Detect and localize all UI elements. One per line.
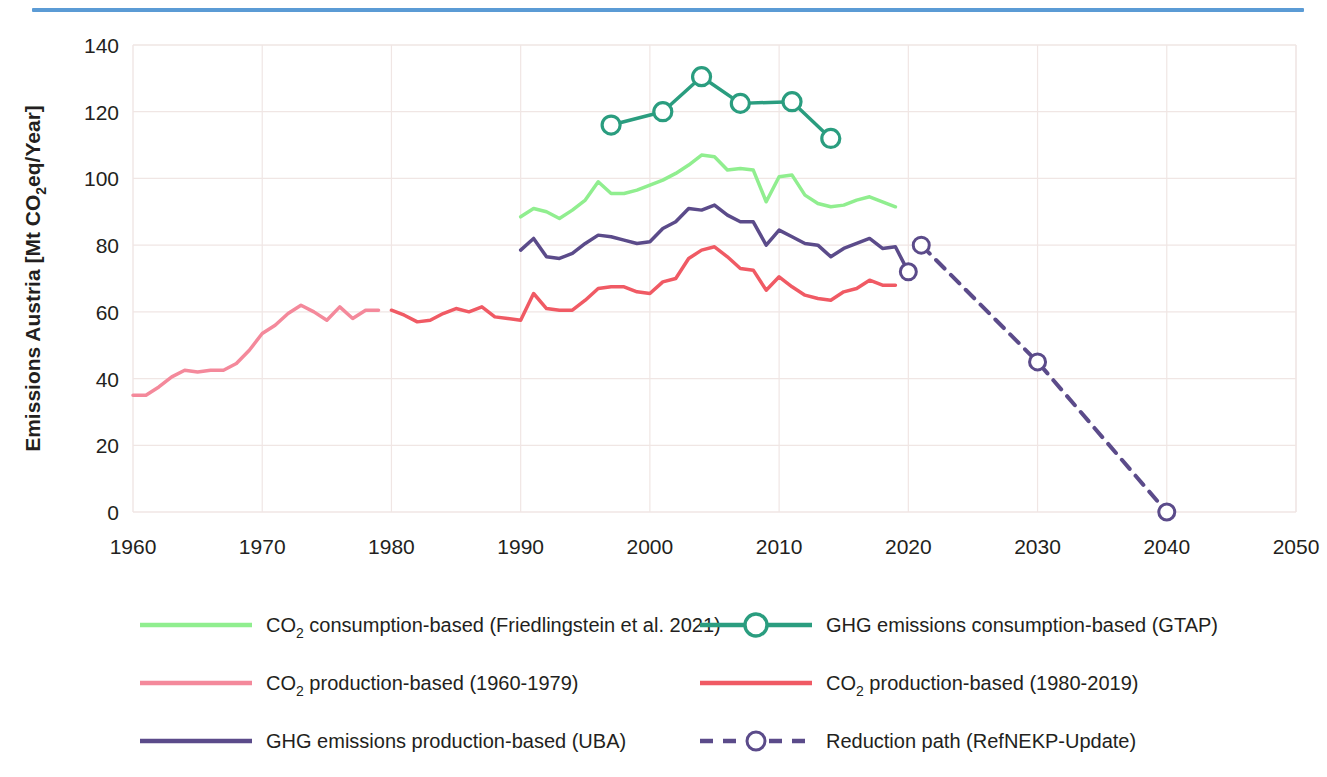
y-tick-label-140: 140 (84, 34, 119, 57)
series-line-co2_production_late (391, 247, 895, 322)
emissions-chart-figure: 020406080100120140 196019701980199020002… (0, 0, 1327, 777)
x-axis-tick-labels: 1960197019801990200020102020203020402050 (110, 535, 1320, 558)
legend-item-reduction_path[interactable]: Reduction path (RefNEKP-Update) (700, 730, 1136, 752)
data-point-marker (913, 237, 929, 253)
legend-item-co2_production_late[interactable]: CO2 production-based (1980-2019) (700, 672, 1138, 699)
y-tick-label-120: 120 (84, 101, 119, 124)
series-co2_production_early (133, 305, 379, 395)
y-axis-tick-labels: 020406080100120140 (84, 34, 119, 524)
axis-frame (133, 45, 1296, 512)
x-tick-label-2000: 2000 (627, 535, 674, 558)
data-point-marker (693, 68, 711, 86)
x-tick-label-2010: 2010 (756, 535, 803, 558)
data-point-marker-endpoint (900, 264, 916, 280)
data-point-marker (654, 103, 672, 121)
x-tick-label-2030: 2030 (1014, 535, 1061, 558)
series-line-ghg_production_uba (521, 205, 909, 272)
series-line-co2_production_early (133, 305, 379, 395)
y-axis-title-text: Emissions Austria [Mt CO2eq/Year] (21, 105, 49, 452)
data-point-marker (602, 116, 620, 134)
legend-item-co2_consumption_friedlingstein[interactable]: CO2 consumption-based (Friedlingstein et… (140, 614, 721, 641)
series-ghg_production_uba (521, 205, 917, 280)
data-point-marker (1159, 504, 1175, 520)
series-co2_production_late (391, 247, 895, 322)
legend-label: CO2 production-based (1960-1979) (266, 672, 578, 699)
y-tick-label-100: 100 (84, 167, 119, 190)
series-ghg_consumption_gtap (602, 68, 840, 148)
legend-swatch-marker (747, 732, 765, 750)
y-tick-label-80: 80 (96, 234, 119, 257)
x-tick-label-2040: 2040 (1143, 535, 1190, 558)
y-tick-label-20: 20 (96, 434, 119, 457)
y-tick-label-40: 40 (96, 368, 119, 391)
legend-label: CO2 consumption-based (Friedlingstein et… (266, 614, 721, 641)
legend-item-co2_production_early[interactable]: CO2 production-based (1960-1979) (140, 672, 578, 699)
data-point-marker (731, 94, 749, 112)
x-tick-label-1980: 1980 (368, 535, 415, 558)
x-tick-label-1990: 1990 (497, 535, 544, 558)
data-point-marker (822, 129, 840, 147)
legend-label: GHG emissions production-based (UBA) (266, 730, 626, 752)
legend-label: GHG emissions consumption-based (GTAP) (826, 614, 1218, 636)
data-series-layer (133, 68, 1175, 520)
legend-item-ghg_consumption_gtap[interactable]: GHG emissions consumption-based (GTAP) (700, 614, 1218, 636)
data-point-marker (783, 93, 801, 111)
grid-lines (133, 45, 1296, 512)
y-axis-title: Emissions Austria [Mt CO2eq/Year] (21, 105, 49, 452)
x-tick-label-2020: 2020 (885, 535, 932, 558)
legend-item-ghg_production_uba[interactable]: GHG emissions production-based (UBA) (140, 730, 626, 752)
legend-swatch-marker (745, 614, 767, 636)
y-tick-label-60: 60 (96, 301, 119, 324)
svg-text:Emissions Austria [Mt CO2eq/Ye: Emissions Austria [Mt CO2eq/Year] (21, 105, 49, 452)
x-tick-label-2050: 2050 (1273, 535, 1320, 558)
x-tick-label-1960: 1960 (110, 535, 157, 558)
legend-label: Reduction path (RefNEKP-Update) (826, 730, 1136, 752)
data-point-marker (1030, 354, 1046, 370)
y-tick-label-0: 0 (107, 501, 119, 524)
legend-label: CO2 production-based (1980-2019) (826, 672, 1138, 699)
x-tick-label-1970: 1970 (239, 535, 286, 558)
chart-legend: CO2 consumption-based (Friedlingstein et… (140, 614, 1218, 752)
chart-canvas: 020406080100120140 196019701980199020002… (0, 0, 1327, 777)
